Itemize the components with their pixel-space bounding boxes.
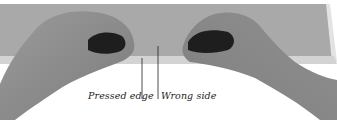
photo-canvas	[0, 0, 337, 120]
wrong-side-label: Wrong side	[161, 90, 216, 101]
pressed-edge-label: Pressed edge	[88, 90, 154, 101]
fabric-folding-illustration: Pressed edge Wrong side	[0, 0, 337, 120]
